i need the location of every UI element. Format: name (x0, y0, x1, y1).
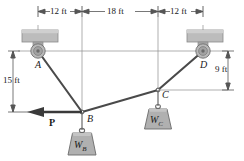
dimension-label-left-vertical: 15 ft (3, 76, 20, 85)
extension-lines-group (82, 17, 158, 112)
dim-arrow-ab-l (38, 9, 45, 14)
point-label-d: D (200, 60, 207, 70)
vdim-left-arrow-bot (11, 105, 15, 112)
dimension-label-cd: 12 ft (170, 7, 187, 16)
cable-c-d (158, 51, 203, 90)
dimension-label-right-vertical: 9 ft (215, 65, 227, 74)
weight-label-b: WB (74, 140, 87, 153)
dim-arrow-cd-r (196, 9, 203, 14)
pulley-d (196, 44, 210, 58)
point-label-c: C (162, 90, 169, 100)
weight-c-subscript: C (158, 120, 163, 128)
cable-b-c (82, 90, 158, 112)
weight-b-subscript: B (82, 145, 86, 153)
diagram-canvas (0, 0, 244, 161)
vdim-right-arrow-top (226, 51, 230, 58)
point-label-b: B (87, 114, 93, 124)
pulley-a (31, 44, 45, 58)
mechanics-diagram: 12 ft 18 ft 12 ft 15 ft 9 ft A B C D P W… (0, 0, 244, 161)
cable-a-b (38, 51, 82, 112)
point-label-a: A (35, 60, 41, 70)
force-arrow-p (27, 107, 82, 117)
dim-arrow-cd-l (158, 9, 165, 14)
cable-group (38, 51, 203, 112)
dimension-label-ab: 12 ft (50, 7, 67, 16)
dim-arrow-bc-l (82, 9, 89, 14)
force-label-p: P (49, 118, 55, 128)
vdim-left-arrow-top (11, 51, 15, 58)
weight-label-c: WC (150, 115, 163, 128)
vdim-right-arrow-bot (226, 83, 230, 90)
dimension-label-bc: 18 ft (107, 7, 124, 16)
